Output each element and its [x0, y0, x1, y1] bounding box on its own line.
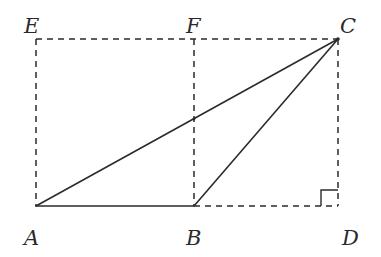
point-intersection: [193, 118, 196, 121]
segment-AC: [36, 39, 338, 206]
label-B: B: [185, 226, 201, 250]
label-C: C: [340, 14, 356, 38]
label-A: A: [22, 226, 39, 250]
segment-BC: [194, 39, 338, 206]
right-angle-marker-D: [321, 190, 338, 206]
label-E: E: [23, 14, 39, 38]
label-D: D: [341, 226, 359, 250]
geometry-diagram: E F C A B D: [0, 0, 381, 257]
label-F: F: [185, 14, 202, 38]
